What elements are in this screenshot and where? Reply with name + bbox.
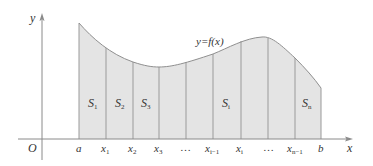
riemann-sum-diagram: y x O y=f(x) a x1 x2 x3 … xi−1 xi … xn−1… bbox=[0, 0, 373, 166]
tick-label-ellipsis-2: … bbox=[263, 141, 274, 153]
tick-label-xi-1: xi−1 bbox=[204, 142, 220, 156]
tick-label-b: b bbox=[318, 142, 324, 154]
tick-label-xi: xi bbox=[235, 142, 243, 156]
origin-label: O bbox=[28, 141, 37, 155]
x-tick-labels: a x1 x2 x3 … xi−1 xi … xn−1 b bbox=[76, 141, 324, 156]
tick-label-x2: x2 bbox=[127, 142, 137, 156]
y-axis-arrow-icon bbox=[40, 13, 45, 21]
tick-label-x3: x3 bbox=[153, 142, 163, 156]
curve-label: y=f(x) bbox=[195, 35, 224, 48]
tick-label-xn-1: xn−1 bbox=[286, 142, 303, 156]
tick-label-a: a bbox=[76, 142, 82, 154]
y-axis-label: y bbox=[29, 11, 36, 25]
tick-label-ellipsis-1: … bbox=[180, 141, 191, 153]
x-axis-label: x bbox=[346, 141, 353, 155]
tick-label-x1: x1 bbox=[100, 142, 110, 156]
